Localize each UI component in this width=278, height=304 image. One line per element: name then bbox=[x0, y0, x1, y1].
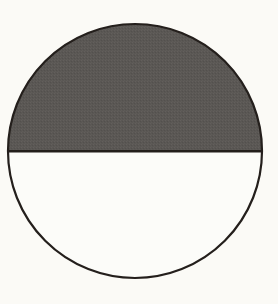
figure-canvas: Circle with upper half shaded upper half… bbox=[0, 0, 278, 304]
half-shaded-circle-diagram bbox=[0, 0, 278, 304]
